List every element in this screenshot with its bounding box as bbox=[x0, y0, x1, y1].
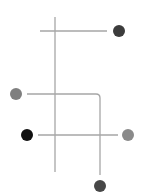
node-mid-left-dot-icon bbox=[10, 88, 22, 100]
connector-diagram bbox=[0, 0, 144, 195]
node-low-left-dot-icon bbox=[21, 129, 33, 141]
node-bottom-dot-icon bbox=[94, 180, 106, 192]
diagram-nodes bbox=[10, 25, 134, 192]
diagram-canvas bbox=[0, 0, 144, 195]
node-top-right-dot-icon bbox=[113, 25, 125, 37]
connector-lines bbox=[27, 17, 118, 175]
node-low-right-dot-icon bbox=[122, 129, 134, 141]
connector-corner bbox=[96, 94, 100, 98]
